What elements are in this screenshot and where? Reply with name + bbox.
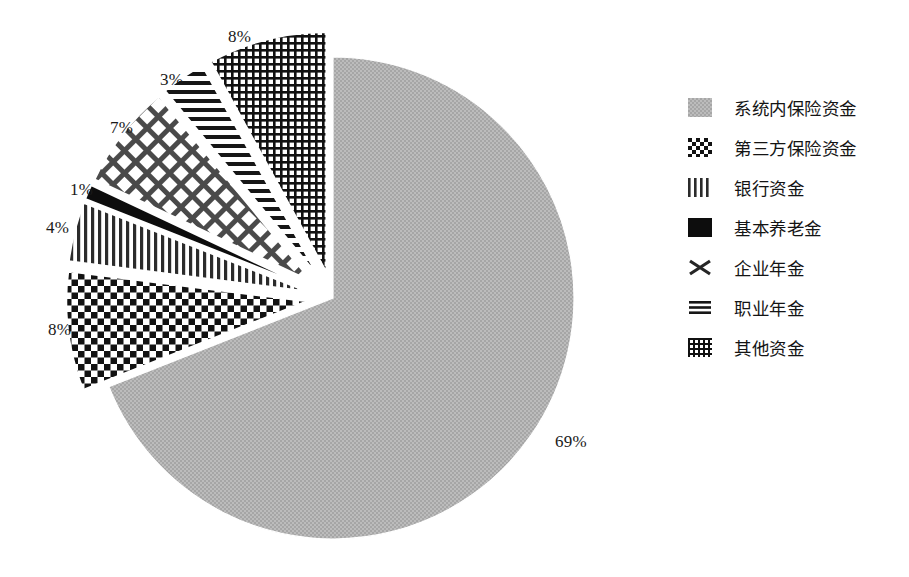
pie-percent-label: 69% [555,432,587,452]
legend-item[interactable]: 企业年金 [688,256,903,278]
pie-percent-label: 8% [228,27,251,47]
swatch-gray-dither-icon [688,98,712,117]
swatch-crosshatch-icon [688,258,712,277]
legend-item[interactable]: 其他资金 [688,336,903,358]
pie-percent-label: 1% [70,180,93,200]
legend-item-label: 职业年金 [734,295,804,320]
pie-percent-label: 3% [160,70,183,90]
swatch-checkerboard-icon [688,138,712,157]
pie-percent-label: 4% [46,218,69,238]
legend-item[interactable]: 职业年金 [688,296,903,318]
chart-legend: 系统内保险资金 第三方保险资金 银行资金 基本养老金 企业年金 职业年金 [688,96,903,358]
legend-item[interactable]: 第三方保险资金 [688,136,903,158]
legend-item-label: 基本养老金 [734,215,822,240]
swatch-vertical-lines-icon [688,178,712,197]
legend-item-label: 其他资金 [734,335,804,360]
legend-item[interactable]: 银行资金 [688,176,903,198]
swatch-fine-grid-icon [688,338,712,357]
pie-chart-figure: 8%3%7%1%4%8%69% 系统内保险资金 第三方保险资金 银行资金 基本养… [0,0,909,577]
legend-item-label: 企业年金 [734,255,804,280]
pie-percent-label: 7% [110,118,133,138]
swatch-horizontal-lines-icon [688,298,712,317]
legend-item-label: 第三方保险资金 [734,135,857,160]
legend-item-label: 系统内保险资金 [734,95,857,120]
swatch-solid-black-icon [688,218,712,237]
legend-item[interactable]: 系统内保险资金 [688,96,903,118]
legend-item[interactable]: 基本养老金 [688,216,903,238]
legend-item-label: 银行资金 [734,175,804,200]
pie-percent-label: 8% [48,320,71,340]
